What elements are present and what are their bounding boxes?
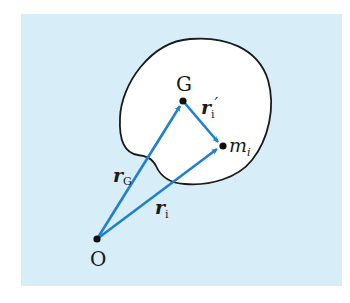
center-of-mass-label: G: [176, 72, 192, 96]
origin-label: O: [90, 247, 106, 271]
vector-r-i-label: ri: [155, 196, 169, 221]
rigid-body-position-vector-diagram: O G mi rG ri ri′: [0, 0, 350, 303]
mass-point-mi: [219, 142, 226, 149]
origin-point: [93, 235, 100, 242]
vector-r-G-label: rG: [113, 164, 132, 188]
rigid-body-outline: [120, 39, 271, 185]
center-of-mass-point: [179, 97, 186, 104]
